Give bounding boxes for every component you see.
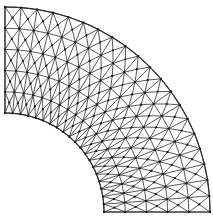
mesh-center-node — [121, 84, 123, 86]
mesh-corner-node — [58, 104, 60, 106]
mesh-edge — [103, 197, 114, 200]
mesh-corner-node — [158, 161, 160, 163]
mesh-corner-node — [27, 115, 29, 117]
mesh-edge — [18, 50, 31, 52]
mesh-center-node — [88, 60, 90, 62]
mesh-edge — [72, 30, 75, 43]
mesh-corner-node — [52, 12, 54, 14]
mesh-center-node — [136, 137, 138, 139]
mesh-center-node — [11, 38, 13, 40]
mesh-edge — [62, 37, 76, 42]
mesh-edge — [124, 59, 125, 72]
mesh-center-node — [77, 102, 79, 104]
mesh-edge — [16, 71, 27, 72]
mesh-corner-node — [106, 148, 108, 150]
mesh-corner-node — [82, 21, 84, 23]
mesh-edge — [180, 155, 184, 169]
mesh-edge — [86, 35, 88, 48]
mesh-corner-node — [78, 90, 80, 92]
mesh-center-node — [136, 68, 138, 70]
mesh-edge — [58, 69, 60, 81]
mesh-edge — [124, 193, 135, 196]
mesh-edge — [148, 159, 160, 161]
mesh-edge — [101, 80, 111, 88]
mesh-edge — [112, 63, 113, 76]
mesh-edge — [88, 48, 101, 55]
mesh-edge — [96, 166, 116, 174]
mesh-corner-node — [4, 112, 6, 114]
mesh-edge — [58, 25, 62, 37]
mesh-edge — [90, 73, 101, 80]
mesh-edge — [30, 51, 34, 63]
mesh-edge — [150, 138, 162, 139]
mesh-edge — [135, 82, 145, 93]
mesh-edge — [33, 95, 42, 98]
mesh-edge — [160, 162, 163, 174]
mesh-corner-node — [13, 91, 15, 93]
mesh-edge — [11, 60, 16, 71]
mesh-edge — [167, 192, 177, 200]
mesh-edge — [113, 46, 125, 63]
mesh-center-node — [166, 151, 168, 153]
mesh-edge — [52, 45, 55, 57]
mesh-edge — [129, 106, 137, 116]
mesh-edge — [167, 199, 168, 212]
mesh-edge — [112, 157, 116, 166]
mesh-corner-node — [141, 178, 143, 180]
mesh-corner-node — [130, 147, 132, 149]
mesh-center-node — [64, 48, 66, 50]
mesh-center-node — [198, 203, 200, 205]
mesh-edge — [5, 39, 12, 49]
mesh-center-node — [161, 138, 163, 140]
mesh-edge — [184, 169, 196, 174]
mesh-corner-node — [115, 165, 117, 167]
mesh-center-node — [165, 103, 167, 105]
mesh-edge — [18, 103, 21, 114]
mesh-edge — [83, 121, 90, 127]
mesh-corner-node — [112, 62, 114, 64]
mesh-edge — [100, 42, 101, 55]
mesh-edge — [48, 33, 52, 45]
mesh-edge — [188, 196, 209, 198]
mesh-corner-node — [62, 131, 64, 133]
mesh-center-node — [34, 62, 36, 64]
mesh-center-node — [19, 81, 21, 83]
mesh-center-node — [109, 181, 111, 183]
mesh-corner-node — [88, 159, 90, 161]
mesh-edge — [144, 127, 150, 138]
mesh-center-node — [42, 108, 44, 110]
mesh-corner-node — [185, 182, 187, 184]
mesh-corner-node — [67, 16, 69, 18]
mesh-center-node — [127, 166, 129, 168]
mesh-edge — [145, 190, 146, 201]
mesh-edge — [124, 72, 135, 82]
mesh-edge — [9, 102, 12, 113]
mesh-edge — [124, 193, 125, 202]
mesh-edge — [27, 72, 30, 83]
mesh-corner-node — [4, 27, 6, 29]
mesh-corner-node — [37, 73, 39, 75]
mesh-edge — [25, 40, 30, 51]
mesh-edge — [155, 150, 167, 152]
mesh-edge — [115, 208, 126, 212]
mesh-center-node — [10, 59, 12, 61]
mesh-edge — [80, 134, 96, 148]
mesh-edge — [42, 98, 51, 101]
mesh-edge — [188, 198, 199, 205]
mesh-edge — [137, 56, 138, 69]
mesh-edge — [163, 174, 175, 178]
mesh-edge — [154, 104, 162, 116]
mesh-corner-node — [124, 201, 126, 203]
mesh-edge — [43, 54, 46, 66]
mesh-corner-node — [84, 153, 86, 155]
mesh-corner-node — [54, 56, 56, 58]
mesh-corner-node — [98, 180, 100, 182]
mesh-corner-node — [145, 200, 147, 202]
mesh-corner-node — [121, 183, 123, 185]
mesh-corner-node — [67, 108, 69, 110]
mesh-edge — [175, 142, 180, 156]
mesh-edge — [55, 57, 57, 69]
mesh-edge — [196, 174, 208, 180]
mesh-edge — [60, 105, 68, 110]
mesh-center-node — [118, 147, 120, 149]
